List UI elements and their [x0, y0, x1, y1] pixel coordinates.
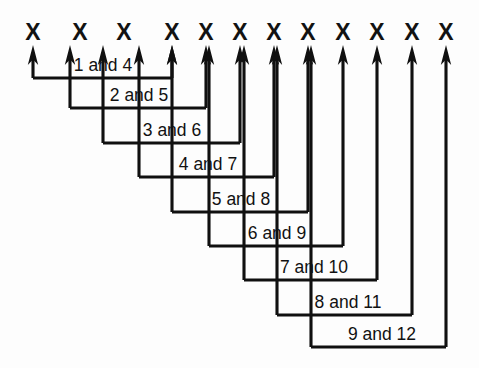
- x-mark-3: X: [116, 19, 132, 45]
- x-mark-11: X: [404, 19, 420, 45]
- x-mark-2: X: [72, 19, 88, 45]
- pair-label-9: 9 and 12: [348, 324, 416, 344]
- pair-label-2: 2 and 5: [110, 85, 168, 105]
- x-mark-5: X: [198, 19, 214, 45]
- pair-label-4: 4 and 7: [179, 154, 237, 174]
- pair-label-6: 6 and 9: [248, 223, 306, 243]
- pair-label-7: 7 and 10: [280, 257, 348, 277]
- x-mark-9: X: [335, 19, 351, 45]
- x-mark-10: X: [369, 19, 385, 45]
- pair-label-1: 1 and 4: [74, 55, 133, 75]
- pairing-diagram: XXXXXXXXXXXX 1 and 42 and 53 and 64 and …: [0, 0, 479, 368]
- pair-label-3: 3 and 6: [143, 120, 201, 140]
- x-mark-6: X: [232, 19, 248, 45]
- mark-row: XXXXXXXXXXXX: [25, 19, 454, 45]
- x-mark-4: X: [164, 19, 180, 45]
- pair-label-8: 8 and 11: [315, 292, 382, 312]
- x-mark-7: X: [266, 19, 282, 45]
- pair-label-5: 5 and 8: [212, 189, 270, 209]
- diagram-canvas: XXXXXXXXXXXX 1 and 42 and 53 and 64 and …: [0, 0, 479, 368]
- x-mark-1: X: [25, 19, 41, 45]
- x-mark-12: X: [438, 19, 454, 45]
- x-mark-8: X: [300, 19, 316, 45]
